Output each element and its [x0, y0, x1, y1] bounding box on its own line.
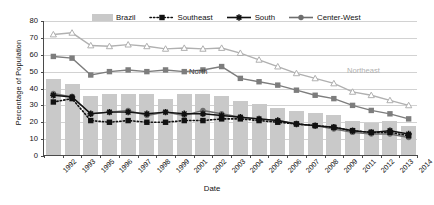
marker-filled-square — [219, 64, 224, 69]
y-tick-label: 0 — [16, 152, 38, 160]
marker-filled-square — [107, 120, 112, 125]
x-tick-label: 2013 — [398, 157, 416, 175]
marker-star-burst — [144, 111, 150, 117]
chart-legend: BrazilSoutheastSouthCenter-West — [92, 11, 361, 24]
marker-filled-square — [331, 125, 336, 130]
marker-filled-square — [182, 118, 187, 123]
marker-filled-square — [369, 130, 374, 135]
series-north — [51, 54, 412, 122]
x-tick-label: 2012 — [379, 157, 397, 175]
x-tick-label: 2006 — [285, 157, 303, 175]
x-axis-tick — [417, 155, 418, 158]
marker-filled-square — [125, 67, 130, 72]
x-tick-label: 1993 — [80, 157, 98, 175]
marker-filled-square — [387, 111, 392, 116]
marker-filled-square — [219, 116, 224, 121]
series-southeast — [51, 96, 412, 139]
marker-filled-square — [238, 116, 243, 121]
y-tick-label: 60 — [16, 51, 38, 59]
y-axis-tick — [41, 55, 44, 56]
x-tick-label: 2011 — [360, 157, 377, 174]
y-axis-tick — [41, 72, 44, 73]
x-tick-label: 2014 — [416, 157, 434, 175]
marker-filled-square — [387, 130, 392, 135]
y-axis-tick — [41, 89, 44, 90]
x-axis-title: Date — [0, 184, 424, 193]
y-axis-tick — [41, 105, 44, 106]
line-series-overlay — [44, 21, 418, 156]
marker-filled-square — [163, 67, 168, 72]
marker-filled-square — [294, 87, 299, 92]
y-axis-tick — [41, 122, 44, 123]
marker-filled-square — [256, 79, 261, 84]
marker-filled-square — [406, 133, 411, 138]
marker-filled-square — [144, 120, 149, 125]
series-annotation-northeast: Northeast — [347, 67, 380, 75]
marker-filled-square — [294, 121, 299, 126]
marker-filled-square — [331, 96, 336, 101]
y-tick-label: 50 — [16, 68, 38, 76]
y-tick-label: 40 — [16, 85, 38, 93]
marker-filled-square — [163, 120, 168, 125]
x-tick-label: 2001 — [192, 157, 210, 175]
x-tick-label: 1995 — [98, 157, 116, 175]
marker-filled-square — [350, 128, 355, 133]
marker-filled-square — [88, 118, 93, 123]
x-tick-label: 2007 — [304, 157, 322, 175]
marker-filled-square — [350, 103, 355, 108]
marker-filled-square — [256, 118, 261, 123]
y-tick-label: 10 — [16, 135, 38, 143]
marker-filled-square — [406, 116, 411, 121]
y-tick-label: 70 — [16, 34, 38, 42]
marker-star-burst — [88, 111, 94, 117]
x-tick-label: 1996 — [117, 157, 135, 175]
solid-line-star-marker-icon — [226, 13, 252, 22]
marker-star-burst — [50, 92, 56, 98]
y-axis-tick — [41, 21, 44, 22]
marker-filled-square — [182, 69, 187, 74]
marker-filled-square — [69, 96, 74, 101]
legend-item-center-west[interactable]: Center-West — [288, 13, 361, 22]
y-axis-tick-labels: 80706050403020100 — [14, 0, 38, 205]
marker-filled-square — [51, 54, 56, 59]
y-tick-label: 20 — [16, 118, 38, 126]
y-axis-tick — [41, 38, 44, 39]
marker-filled-square — [275, 82, 280, 87]
solid-line-circle-marker-icon — [288, 13, 314, 22]
x-tick-label: 2005 — [267, 157, 285, 175]
series-center-west — [51, 91, 412, 140]
marker-filled-square — [275, 120, 280, 125]
dotted-line-square-marker-icon — [149, 13, 175, 22]
marker-filled-square — [238, 76, 243, 81]
marker-star-burst — [125, 109, 131, 115]
filled-bar-swatch-icon — [92, 14, 113, 21]
legend-label: Brazil — [116, 14, 136, 22]
y-tick-label: 30 — [16, 101, 38, 109]
marker-filled-square — [69, 55, 74, 60]
marker-filled-square — [159, 15, 164, 20]
legend-label: Center-West — [317, 14, 361, 22]
marker-filled-square — [107, 69, 112, 74]
marker-filled-square — [51, 99, 56, 104]
plot-area: North Northeast — [43, 21, 417, 156]
x-tick-label: 2002 — [211, 157, 229, 175]
x-tick-label: 2003 — [229, 157, 247, 175]
x-tick-label: 2009 — [342, 157, 360, 175]
marker-filled-square — [125, 118, 130, 123]
marker-star-burst — [181, 111, 187, 117]
marker-filled-square — [312, 93, 317, 98]
marker-filled-square — [312, 123, 317, 128]
legend-label: Southeast — [178, 14, 213, 22]
y-axis-tick — [41, 139, 44, 140]
legend-item-south[interactable]: South — [226, 13, 275, 22]
x-tick-label: 2004 — [248, 157, 266, 175]
x-tick-label: 2008 — [323, 157, 341, 175]
marker-filled-square — [369, 108, 374, 113]
legend-item-brazil[interactable]: Brazil — [92, 14, 136, 22]
marker-star-burst — [200, 111, 206, 117]
x-tick-label: 1997 — [136, 157, 154, 175]
legend-item-southeast[interactable]: Southeast — [149, 13, 213, 22]
series-annotation-north: North — [189, 68, 208, 76]
x-tick-label: 1992 — [61, 157, 79, 175]
x-axis-tick-labels: 1992199319951996199719981999200120022003… — [43, 157, 417, 187]
